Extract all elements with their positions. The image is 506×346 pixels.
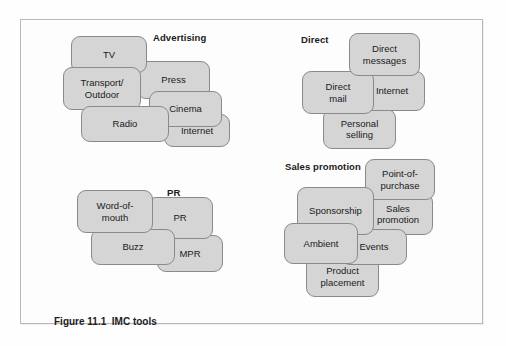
figure-caption: Figure 11.1 IMC tools [54,316,157,327]
node-radio-label: Radio [113,118,138,130]
node-transport-outdoor-label: Transport/ Outdoor [81,77,124,100]
node-cinema-label: Cinema [169,103,202,115]
cluster-title-direct: Direct [301,34,329,45]
cluster-title-sales-promotion: Sales promotion [285,161,361,172]
node-internet-direct-label: Internet [376,85,408,97]
node-point-of-purchase: Point-of- purchase [365,159,435,200]
cluster-title-advertising: Advertising [153,32,206,43]
node-direct-messages-label: Direct messages [363,43,406,66]
node-sponsorship-label: Sponsorship [309,205,362,217]
node-mpr-label: MPR [179,248,200,260]
node-direct-mail: Direct mail [302,71,374,114]
node-pr-label: PR [173,212,186,224]
node-radio: Radio [81,106,169,142]
node-word-of-mouth-label: Word-of- mouth [97,200,134,223]
figure-root: AdvertisingTVPressTransport/ OutdoorCine… [0,0,506,346]
node-events-label: Events [359,241,388,253]
node-point-of-purchase-label: Point-of- purchase [380,168,419,191]
node-personal-selling-label: Personal selling [341,118,379,141]
node-word-of-mouth: Word-of- mouth [77,190,153,233]
node-direct-messages: Direct messages [349,33,420,76]
node-buzz-label: Buzz [122,241,143,253]
node-direct-mail-label: Direct mail [326,81,351,104]
node-tv-label: TV [103,49,115,61]
figure-frame: AdvertisingTVPressTransport/ OutdoorCine… [20,19,483,324]
node-ambient-label: Ambient [304,238,339,250]
node-sales-promotion-label: Sales promotion [377,203,419,226]
node-personal-selling: Personal selling [323,109,396,149]
node-ambient: Ambient [284,223,358,264]
node-product-placement-label: Product placement [321,265,365,288]
node-press-label: Press [161,74,185,86]
node-buzz: Buzz [91,229,175,265]
node-transport-outdoor: Transport/ Outdoor [63,67,141,110]
